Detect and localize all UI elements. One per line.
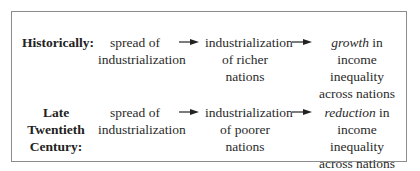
row-label-text: Historically: [22, 35, 94, 50]
result-suffix: in [369, 35, 383, 50]
cause-line-1: spread of [98, 34, 172, 51]
result-line-3: across nations [315, 155, 399, 171]
right-arrow-icon [179, 38, 199, 46]
cause-box-late: spread of industrialization [98, 104, 172, 138]
right-arrow-icon [179, 108, 199, 116]
result-line-2: income inequality [315, 51, 399, 85]
result-emphasis: reduction [324, 105, 375, 120]
effect-line-1: industrialization [205, 34, 285, 51]
result-line-1: growth in [315, 34, 399, 51]
right-arrow-icon [292, 108, 312, 116]
effect-line-1: industrialization [205, 104, 285, 121]
row-label-late-twentieth-century: Late Twentieth Century: [14, 104, 98, 155]
result-emphasis: growth [331, 35, 369, 50]
cause-line-2: industrialization [98, 51, 172, 68]
row-label-historically: Historically: [20, 34, 96, 51]
effect-line-2: of poorer nations [205, 121, 285, 155]
result-line-3: across nations [315, 85, 399, 102]
cause-line-1: spread of [98, 104, 172, 121]
result-suffix: in [376, 105, 390, 120]
cause-box-historical: spread of industrialization [98, 34, 172, 68]
result-line-2: income inequality [315, 121, 399, 155]
result-line-1: reduction in [315, 104, 399, 121]
effect-box-late: industrialization of poorer nations [205, 104, 285, 155]
result-box-late: reduction in income inequality across na… [315, 104, 399, 171]
effect-line-2: of richer nations [205, 51, 285, 85]
cause-line-2: industrialization [98, 121, 172, 138]
effect-box-historical: industrialization of richer nations [205, 34, 285, 85]
right-arrow-icon [292, 38, 312, 46]
row-label-line-2: Century: [14, 138, 98, 155]
result-box-historical: growth in income inequality across natio… [315, 34, 399, 102]
row-label-line-1: Late Twentieth [14, 104, 98, 138]
